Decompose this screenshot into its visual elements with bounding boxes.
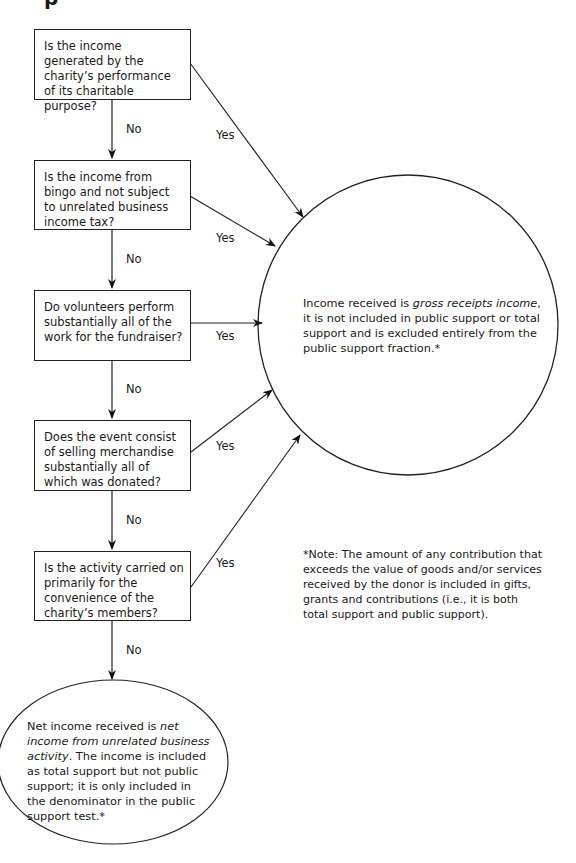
yes-label: Yes [216, 128, 235, 142]
outcome-text: Income received is [303, 297, 413, 310]
outcome-net-unrelated-business: Net income received is net income from u… [27, 719, 212, 824]
question-box-charitable-purpose: Is the income generated by the charity’s… [34, 29, 191, 100]
question-box-volunteers: Do volunteers perform substantially all … [34, 290, 191, 361]
yes-label: Yes [216, 439, 235, 453]
yes-label: Yes [216, 231, 235, 245]
question-box-donated-merchandise: Does the event consist of selling mercha… [34, 420, 191, 491]
question-text: Does the event consist of selling mercha… [44, 430, 176, 489]
question-text: Is the income from bingo and not subject… [44, 170, 169, 229]
no-label: No [126, 382, 142, 396]
question-text: Is the activity carried on primarily for… [44, 561, 184, 620]
outcome-gross-receipts: Income received is gross receipts income… [303, 296, 548, 356]
yes-label: Yes [216, 556, 235, 570]
yes-label: Yes [216, 329, 235, 343]
question-text: Do volunteers perform substantially all … [44, 300, 182, 344]
outcome-text: Net income received is [27, 720, 160, 733]
no-label: No [126, 252, 142, 266]
no-label: No [126, 643, 142, 657]
footnote: *Note: The amount of any contribution th… [303, 547, 543, 622]
question-box-member-convenience: Is the activity carried on primarily for… [34, 551, 191, 621]
outcome-term: gross receipts income [413, 297, 537, 310]
question-box-bingo: Is the income from bingo and not subject… [34, 160, 191, 230]
no-label: No [126, 513, 142, 527]
no-label: No [126, 122, 142, 136]
